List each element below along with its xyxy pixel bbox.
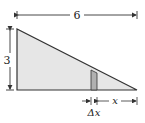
x-label: x — [112, 95, 118, 106]
x-dimension — [82, 97, 137, 105]
triangle-diagram: 6 3 x Δx — [0, 0, 145, 123]
width-label: 6 — [74, 9, 81, 22]
delta-x-label: Δx — [87, 107, 101, 118]
height-label: 3 — [4, 54, 11, 67]
delta-x-strip — [91, 70, 97, 90]
triangle — [17, 29, 137, 90]
